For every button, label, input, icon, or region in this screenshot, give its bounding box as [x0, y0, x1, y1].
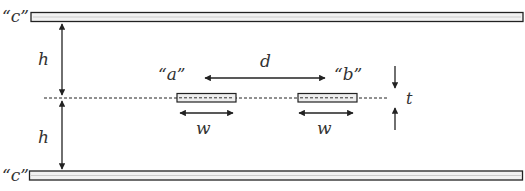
- strip-b-label: “b”: [334, 64, 362, 84]
- stripline-diagram: “c” “c” h h “a” “b” d w w t: [0, 0, 525, 191]
- plate-top-label: “c”: [2, 6, 29, 26]
- strip-a: [177, 94, 236, 103]
- plate-bottom-label: “c”: [2, 165, 29, 185]
- width-a-label: w: [196, 118, 211, 138]
- height-bottom-label: h: [38, 127, 49, 147]
- separation-label: d: [260, 51, 271, 71]
- top-ground-plate: [31, 13, 523, 22]
- thickness-label: t: [406, 89, 413, 108]
- width-b-label: w: [317, 118, 332, 138]
- height-top-label: h: [38, 49, 49, 69]
- bottom-ground-plate: [30, 171, 523, 180]
- strip-a-label: “a”: [158, 64, 186, 84]
- strip-b: [298, 94, 357, 103]
